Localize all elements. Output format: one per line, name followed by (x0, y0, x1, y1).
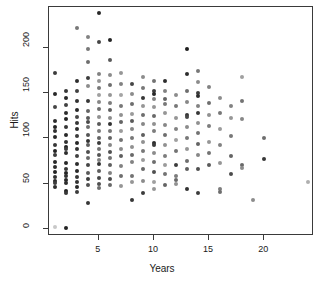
data-point (97, 11, 101, 15)
data-point (262, 136, 266, 140)
data-point (86, 120, 90, 124)
data-point (75, 108, 79, 112)
data-point (97, 186, 101, 190)
data-point (152, 170, 156, 174)
data-point (97, 141, 101, 145)
data-point (130, 160, 134, 164)
data-point (53, 153, 57, 157)
data-point (174, 116, 178, 120)
data-point (75, 180, 79, 184)
data-point (185, 147, 189, 151)
data-point (64, 96, 68, 100)
data-point (119, 129, 123, 133)
data-point (141, 104, 145, 108)
data-point (53, 129, 57, 133)
data-point (53, 225, 57, 229)
data-point (108, 83, 112, 87)
data-point (163, 102, 167, 106)
data-point (251, 198, 255, 202)
data-point (64, 226, 68, 230)
data-point (163, 183, 167, 187)
data-point (53, 71, 57, 75)
data-point (75, 99, 79, 103)
data-point (97, 93, 101, 97)
data-point (152, 79, 156, 83)
data-point (53, 135, 57, 139)
data-point (108, 101, 112, 105)
x-axis-tick-label: 15 (203, 245, 213, 254)
data-point (86, 125, 90, 129)
data-point (130, 153, 134, 157)
data-point (108, 116, 112, 120)
data-point (174, 104, 178, 108)
data-point (196, 80, 200, 84)
data-point (163, 97, 167, 101)
data-point (152, 180, 156, 184)
data-point (86, 109, 90, 113)
data-point (130, 180, 134, 184)
data-point (141, 191, 145, 195)
data-point (196, 121, 200, 125)
data-point (97, 129, 101, 133)
data-point (86, 150, 90, 154)
data-point (64, 133, 68, 137)
data-point (119, 147, 123, 151)
data-point (86, 35, 90, 39)
data-point (141, 86, 145, 90)
data-point (97, 169, 101, 173)
data-point (185, 47, 189, 51)
data-point (141, 140, 145, 144)
data-point (53, 170, 57, 174)
data-point (119, 71, 123, 75)
data-point (141, 122, 145, 126)
data-point (141, 179, 145, 183)
data-point (229, 134, 233, 138)
scatter-plot-figure: 5101520 050100150200 Hits Years (0, 0, 324, 283)
data-point (119, 138, 123, 142)
data-point (196, 191, 200, 195)
data-point (86, 84, 90, 88)
data-point (141, 96, 145, 100)
data-point (185, 72, 189, 76)
data-point (141, 158, 145, 162)
x-axis-tick-label: 5 (95, 245, 100, 254)
data-point (108, 156, 112, 160)
data-point (196, 104, 200, 108)
data-point (86, 163, 90, 167)
data-point (53, 149, 57, 153)
data-point (64, 191, 68, 195)
data-point (108, 38, 112, 42)
data-point (229, 154, 233, 158)
y-axis-tick (43, 183, 48, 184)
data-point (75, 154, 79, 158)
data-point (75, 141, 79, 145)
data-point (53, 92, 57, 96)
data-point (152, 122, 156, 126)
data-point (75, 127, 79, 131)
data-point (108, 183, 112, 187)
data-point (97, 153, 101, 157)
data-point (108, 177, 112, 181)
data-point (130, 127, 134, 131)
data-point (141, 113, 145, 117)
data-point (152, 187, 156, 191)
data-point (207, 124, 211, 128)
y-axis-title: Hits (10, 111, 20, 128)
data-point (207, 163, 211, 167)
data-point (218, 190, 222, 194)
data-point (240, 99, 244, 103)
data-point (86, 133, 90, 137)
data-point (141, 149, 145, 153)
y-axis-tick (43, 137, 48, 138)
data-point (207, 85, 211, 89)
data-point (75, 147, 79, 151)
data-point (185, 167, 189, 171)
data-point (53, 165, 57, 169)
data-point (97, 115, 101, 119)
data-point (207, 140, 211, 144)
data-point (75, 162, 79, 166)
data-point (196, 69, 200, 73)
plot-panel (48, 6, 313, 235)
data-point (130, 198, 134, 202)
data-point (86, 143, 90, 147)
